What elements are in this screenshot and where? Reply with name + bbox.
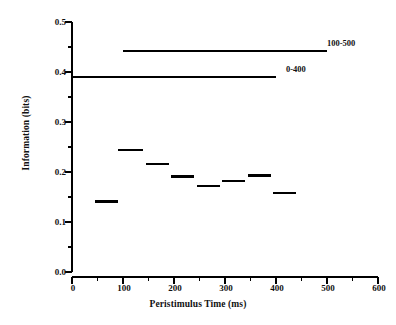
x-tick-label-5: 500 (308, 283, 348, 293)
y-tick-label-1: 0.4 (36, 67, 66, 77)
chart-figure: Information (bits) Peristimulus Time (ms… (0, 0, 396, 325)
x-tick-label-3: 300 (206, 283, 246, 293)
y-axis-title: Information (bits) (21, 63, 31, 203)
x-tick-label-0: 0 (53, 283, 93, 293)
series-label-100-500: 100-500 (327, 38, 355, 48)
y-tick-label-5: 0.0 (36, 267, 66, 277)
y-tick-label-0: 0.5 (36, 17, 66, 27)
x-tick-label-1: 100 (104, 283, 144, 293)
y-tick-label-4: 0.1 (36, 217, 66, 227)
x-tick-label-6: 600 (359, 283, 396, 293)
x-axis-title: Peristimulus Time (ms) (0, 299, 396, 309)
y-tick-label-2: 0.3 (36, 117, 66, 127)
y-tick-label-3: 0.2 (36, 167, 66, 177)
x-tick-label-2: 200 (155, 283, 195, 293)
x-tick-label-4: 400 (257, 283, 297, 293)
series-label-0-400: 0-400 (286, 64, 306, 74)
